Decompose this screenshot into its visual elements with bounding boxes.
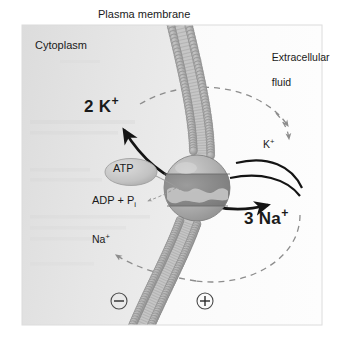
potassium-influx-label: 2 K+ xyxy=(84,97,119,117)
extracellular-line-2: fluid xyxy=(272,76,291,88)
extracellular-fluid-label: Extracellular fluid xyxy=(266,39,330,89)
potassium-charge: + xyxy=(111,94,118,108)
lipid-head-group xyxy=(189,147,197,155)
sodium-gradient-label: Na+ xyxy=(92,233,110,245)
sodium-efflux-label: 3 Na+ xyxy=(244,209,289,229)
sodium-small-charge: + xyxy=(105,232,109,241)
plasma-membrane-label: Plasma membrane xyxy=(98,8,190,21)
sodium-small-symbol: Na xyxy=(92,233,105,245)
potassium-gradient-label: K+ xyxy=(263,138,274,150)
pump-highlight xyxy=(175,162,197,174)
sodium-count: 3 xyxy=(244,209,254,228)
lipid-tail xyxy=(197,140,206,141)
adp-phosphate-label: ADP + Pi xyxy=(92,194,136,207)
lipid-tail xyxy=(197,143,206,144)
lipid-tail xyxy=(197,137,206,138)
potassium-small-charge: + xyxy=(270,137,274,146)
atp-label: ATP xyxy=(113,162,134,175)
extracellular-line-1: Extracellular xyxy=(272,51,330,63)
potassium-small-symbol: K xyxy=(263,138,270,150)
sodium-charge: + xyxy=(281,206,288,220)
adp-main-text: ADP + P xyxy=(92,194,134,206)
adp-subscript-i: i xyxy=(134,200,136,209)
cytoplasm-label: Cytoplasm xyxy=(35,39,87,52)
na-k-atpase-pump-protein[interactable] xyxy=(164,155,230,221)
potassium-symbol: K xyxy=(99,97,112,116)
sodium-symbol: Na xyxy=(259,209,281,228)
potassium-count: 2 xyxy=(84,97,94,116)
